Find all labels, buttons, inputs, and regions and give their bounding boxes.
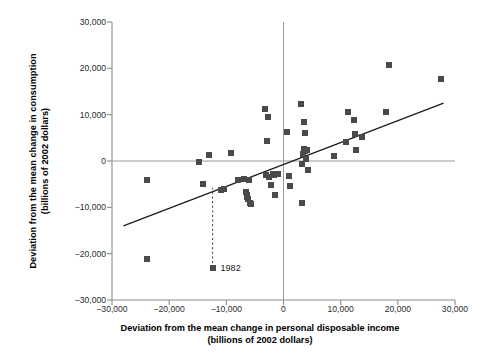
data-point-marker <box>275 171 281 177</box>
x-tick-label: 10,000 <box>328 304 354 314</box>
data-point-marker <box>383 109 389 115</box>
data-point-marker <box>438 76 444 82</box>
data-point-marker <box>272 192 278 198</box>
data-point-marker <box>262 106 268 112</box>
data-point-marker <box>246 177 252 183</box>
data-point-marker <box>353 147 359 153</box>
data-point-marker <box>200 181 206 187</box>
data-point-marker <box>248 201 254 207</box>
annotation-label-1982: 1982 <box>221 263 241 273</box>
x-axis-tick-labels: −30,000−20,000−10,000010,00020,00030,000 <box>0 304 487 324</box>
y-axis-label-line1: Deviation from the mean change in consum… <box>28 53 38 268</box>
data-point-marker <box>286 173 292 179</box>
data-point-marker <box>144 177 150 183</box>
data-point-marker <box>386 62 392 68</box>
data-point-marker <box>284 129 290 135</box>
y-axis-label: Deviation from the mean change in consum… <box>27 26 51 296</box>
data-point-marker <box>264 138 270 144</box>
data-point-marker <box>343 139 349 145</box>
y-tick-label: −10,000 <box>75 202 106 212</box>
data-point-marker <box>210 265 216 271</box>
y-tick-label: 20,000 <box>80 63 106 73</box>
data-point-marker <box>221 186 227 192</box>
x-tick-label: −30,000 <box>96 304 127 314</box>
data-point-marker <box>287 183 293 189</box>
data-point-marker <box>359 134 365 140</box>
x-tick-label: −20,000 <box>154 304 185 314</box>
data-point-marker <box>196 159 202 165</box>
data-point-marker <box>345 109 351 115</box>
x-axis-label-line1: Deviation from the mean change in person… <box>121 323 400 333</box>
data-point-marker <box>331 153 337 159</box>
data-point-marker <box>268 182 274 188</box>
data-point-marker <box>298 101 304 107</box>
data-point-marker <box>302 130 308 136</box>
x-axis-label-line2: (billions of 2002 dollars) <box>207 335 312 345</box>
y-tick-label: 10,000 <box>80 110 106 120</box>
data-point-marker <box>305 167 311 173</box>
data-point-marker <box>206 152 212 158</box>
data-point-marker <box>352 131 358 137</box>
y-tick-label: 30,000 <box>80 17 106 27</box>
data-point-marker <box>304 147 310 153</box>
data-point-marker <box>303 156 309 162</box>
x-axis-label: Deviation from the mean change in person… <box>60 322 460 346</box>
data-point-marker <box>144 256 150 262</box>
x-tick-label: 20,000 <box>385 304 411 314</box>
x-tick-label: 0 <box>281 304 286 314</box>
y-axis-label-line2: (billions of 2002 dollars) <box>40 108 50 214</box>
data-point-marker <box>301 119 307 125</box>
y-tick-label: 0 <box>101 156 106 166</box>
data-point-marker <box>351 117 357 123</box>
y-tick-label: −20,000 <box>75 249 106 259</box>
data-point-marker <box>299 200 305 206</box>
x-tick-label: 30,000 <box>442 304 468 314</box>
data-point-marker <box>265 114 271 120</box>
x-tick-label: −10,000 <box>211 304 242 314</box>
y-axis-tick-labels: −30,000−20,000−10,000010,00020,00030,000 <box>0 0 106 356</box>
scatter-plot-figure: −30,000−20,000−10,000010,00020,00030,000… <box>0 0 487 356</box>
data-point-marker <box>228 150 234 156</box>
